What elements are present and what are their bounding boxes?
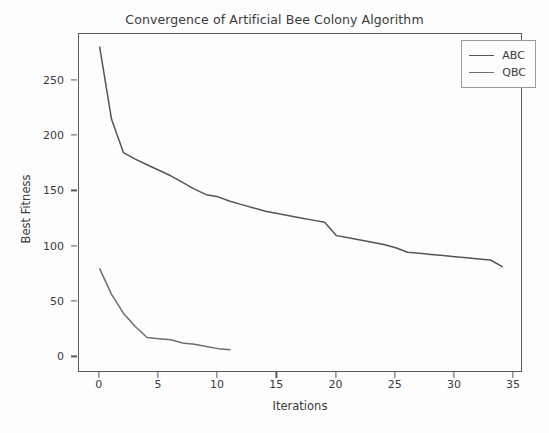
chart-legend: ABC QBC	[461, 40, 536, 88]
y-tick-mark	[71, 301, 77, 302]
y-axis-label: Best Fitness	[19, 129, 33, 289]
legend-label: QBC	[502, 66, 526, 79]
x-tick-label: 20	[316, 378, 356, 391]
y-tick-mark	[71, 134, 77, 135]
x-tick-label: 10	[197, 378, 237, 391]
legend-label: ABC	[502, 49, 525, 62]
y-tick-mark	[71, 245, 77, 246]
y-tick-label: 50	[0, 295, 64, 308]
y-tick-label: 100	[0, 239, 64, 252]
y-tick-label: 0	[0, 350, 64, 363]
legend-line-icon	[469, 72, 494, 73]
y-tick-label: 250	[0, 73, 64, 86]
series-lines	[79, 34, 523, 373]
series-line-qbc	[100, 269, 230, 350]
x-tick-label: 15	[256, 378, 296, 391]
y-tick-label: 150	[0, 184, 64, 197]
chart-title: Convergence of Artificial Bee Colony Alg…	[0, 12, 549, 27]
x-tick-label: 5	[138, 378, 178, 391]
x-axis-label: Iterations	[78, 399, 522, 413]
x-tick-label: 35	[493, 378, 533, 391]
legend-item-0[interactable]: ABC	[469, 47, 526, 64]
chart-figure: Convergence of Artificial Bee Colony Alg…	[0, 0, 549, 433]
y-tick-mark	[71, 190, 77, 191]
x-tick-label: 30	[434, 378, 474, 391]
x-tick-label: 25	[375, 378, 415, 391]
legend-item-1[interactable]: QBC	[469, 64, 526, 81]
plot-area	[78, 33, 522, 372]
y-tick-mark	[71, 79, 77, 80]
y-tick-label: 200	[0, 128, 64, 141]
series-line-abc	[100, 47, 503, 266]
x-tick-label: 0	[79, 378, 119, 391]
y-tick-mark	[71, 356, 77, 357]
legend-line-icon	[469, 55, 494, 56]
